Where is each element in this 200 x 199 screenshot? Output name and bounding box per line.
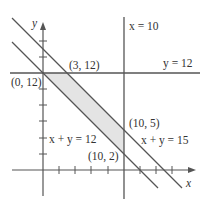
- x-axis-arrow-icon: [188, 167, 196, 173]
- vertex-label-10-5: (10, 5): [129, 117, 160, 130]
- vertex-label-0-12: (0, 12): [11, 76, 42, 89]
- y-axis-label: y: [31, 17, 38, 30]
- vertex-label-3-12: (3, 12): [69, 59, 100, 72]
- label-y-equals-12: y = 12: [163, 57, 193, 70]
- label-x-equals-10: x = 10: [129, 20, 159, 32]
- line-x-plus-y-equals-15: [12, 18, 182, 188]
- vertex-label-10-2: (10, 2): [88, 150, 119, 163]
- y-axis-arrow-icon: [40, 22, 46, 30]
- diagram-canvas: y x x = 10 y = 12 x + y = 12 x + y = 15 …: [0, 0, 200, 199]
- label-x-plus-y-equals-15: x + y = 15: [141, 134, 189, 147]
- label-x-plus-y-equals-12: x + y = 12: [49, 133, 97, 146]
- x-axis-label: x: [185, 177, 192, 189]
